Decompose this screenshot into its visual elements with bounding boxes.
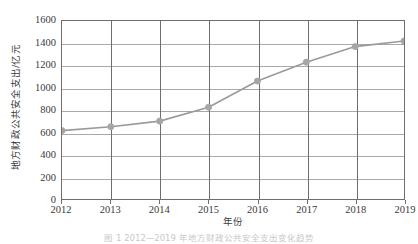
plot-area bbox=[61, 20, 405, 200]
x-tick-label: 2019 bbox=[375, 203, 418, 216]
series-polyline bbox=[62, 41, 404, 131]
y-tick-label: 600 bbox=[22, 128, 56, 138]
data-point-marker bbox=[205, 104, 211, 110]
x-axis-label: 年份 bbox=[61, 216, 405, 228]
series-line bbox=[62, 21, 404, 199]
y-tick-label: 1000 bbox=[22, 83, 56, 93]
data-point-marker bbox=[352, 44, 358, 50]
figure-caption: 图 1 2012—2019 年地方财政公共安全支出变化趋势 bbox=[0, 233, 418, 244]
y-tick-label: 1400 bbox=[22, 38, 56, 48]
y-tick-label: 200 bbox=[22, 173, 56, 183]
data-point-marker bbox=[108, 124, 114, 130]
chart-figure: 地方财政公共安全支出/亿元 02004006008001000120014001… bbox=[0, 0, 418, 244]
y-tick-label: 1600 bbox=[22, 15, 56, 25]
data-point-marker bbox=[62, 128, 65, 134]
data-point-marker bbox=[303, 59, 309, 65]
data-point-marker bbox=[254, 78, 260, 84]
data-point-marker bbox=[157, 118, 163, 124]
y-tick-label: 800 bbox=[22, 105, 56, 115]
y-tick-label: 1200 bbox=[22, 60, 56, 70]
y-tick-label: 400 bbox=[22, 150, 56, 160]
data-point-marker bbox=[401, 38, 404, 44]
